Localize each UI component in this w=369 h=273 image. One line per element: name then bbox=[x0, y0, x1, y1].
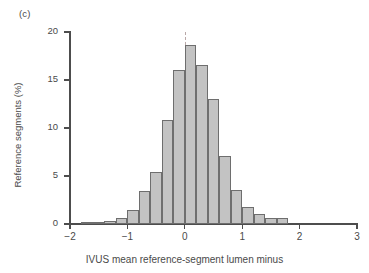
y-tick-label: 10 bbox=[34, 121, 58, 132]
histogram-bar bbox=[139, 191, 150, 224]
x-tick-label: 3 bbox=[342, 231, 369, 242]
x-axis-title: IVUS mean reference-segment lumen minus bbox=[0, 254, 369, 265]
histogram-bar bbox=[162, 120, 173, 224]
y-tick-label: 5 bbox=[34, 169, 58, 180]
y-tick-mark bbox=[64, 79, 69, 80]
x-tick-mark bbox=[127, 224, 128, 229]
y-tick-mark bbox=[64, 127, 69, 128]
x-tick-mark bbox=[356, 224, 357, 229]
histogram-bar bbox=[231, 190, 242, 224]
histogram-bar bbox=[150, 172, 161, 224]
x-tick-mark bbox=[184, 224, 185, 229]
histogram-bar bbox=[93, 222, 104, 224]
histogram-bar bbox=[81, 222, 92, 224]
y-tick-label: 0 bbox=[34, 217, 58, 228]
x-tick-label: −1 bbox=[112, 231, 142, 242]
x-tick-mark bbox=[69, 224, 70, 229]
y-tick-label: 15 bbox=[34, 73, 58, 84]
x-tick-label: 1 bbox=[227, 231, 257, 242]
histogram-bar bbox=[116, 218, 127, 224]
x-tick-label: 2 bbox=[285, 231, 315, 242]
x-tick-mark bbox=[299, 224, 300, 229]
histogram-bar bbox=[254, 214, 265, 224]
y-tick-mark bbox=[64, 223, 69, 224]
histogram-bar bbox=[242, 207, 253, 224]
histogram-bar bbox=[219, 156, 230, 224]
histogram-bar bbox=[127, 210, 138, 224]
histogram-bar bbox=[208, 99, 219, 224]
histogram-bar bbox=[196, 65, 207, 224]
y-tick-label: 20 bbox=[34, 25, 58, 36]
x-tick-label: 0 bbox=[170, 231, 200, 242]
histogram-bar bbox=[265, 218, 276, 224]
x-tick-label: −2 bbox=[55, 231, 85, 242]
histogram-bar bbox=[104, 221, 115, 224]
plot-area bbox=[70, 32, 357, 224]
histogram-bar bbox=[277, 218, 288, 224]
y-tick-mark bbox=[64, 175, 69, 176]
x-tick-mark bbox=[242, 224, 243, 229]
histogram-bar bbox=[185, 45, 196, 224]
histogram-bar bbox=[173, 70, 184, 224]
y-tick-mark bbox=[64, 31, 69, 32]
